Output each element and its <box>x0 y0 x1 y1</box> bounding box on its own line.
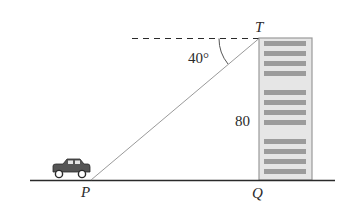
label-T: T <box>255 19 265 35</box>
car-icon <box>53 159 90 178</box>
label-Q: Q <box>252 185 263 201</box>
angle-arc <box>219 39 228 65</box>
diagram-canvas: T Q P 40° 80 <box>0 0 353 206</box>
building <box>259 38 312 180</box>
label-P: P <box>80 184 90 200</box>
line-of-sight-TP <box>91 39 259 181</box>
height-label: 80 <box>235 113 250 129</box>
angle-label: 40° <box>188 50 209 66</box>
